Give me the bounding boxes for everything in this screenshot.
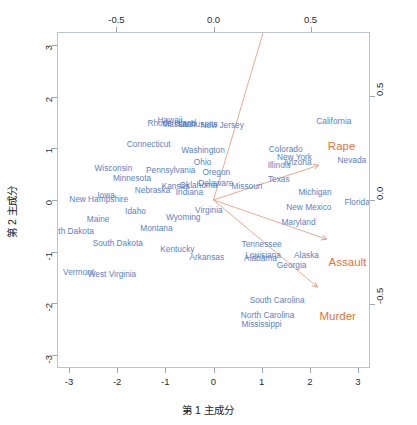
x-tick-label: 3: [355, 376, 360, 387]
x-tick-mark: [262, 368, 263, 373]
observation-label: Arkansas: [189, 253, 224, 261]
observation-label: Tennessee: [242, 240, 282, 248]
y2-tick-label: 0.5: [374, 83, 385, 96]
observation-label: Ohio: [194, 157, 212, 165]
observation-label: Louisiana: [245, 251, 281, 259]
x-axis-title: 第 1 主成分: [182, 402, 234, 417]
observation-label: Wyoming: [166, 212, 201, 220]
x2-tick-mark: [214, 27, 215, 32]
observation-label: Connecticut: [127, 140, 171, 148]
x-tick-label: 0: [211, 376, 216, 387]
x-tick-label: 2: [307, 376, 312, 387]
observation-label: Florida: [344, 198, 369, 206]
y-tick-label: 0: [43, 200, 54, 205]
y-axis-title: 第 2 主成分: [4, 186, 19, 238]
y-tick-label: -3: [43, 355, 54, 363]
observation-label: Montana: [140, 224, 172, 232]
variable-label: Rape: [328, 141, 356, 153]
y-tick-label: 1: [43, 148, 54, 153]
observation-label: Michigan: [298, 188, 331, 196]
y2-tick-label: 0.0: [374, 187, 385, 200]
observation-label: Georgia: [277, 261, 307, 269]
x2-tick-label: 0.5: [304, 14, 317, 25]
observation-label: Nevada: [338, 156, 367, 164]
x-tick-label: 1: [259, 376, 264, 387]
observation-label: Utah: [178, 120, 196, 128]
x2-tick-mark: [311, 27, 312, 32]
observation-label: New Jersey: [201, 121, 244, 129]
observation-label: California: [316, 117, 351, 125]
variable-label: Murder: [320, 311, 356, 323]
x-tick-label: -2: [113, 376, 121, 387]
observation-label: New Mexico: [286, 203, 331, 211]
observation-label: Maine: [87, 215, 110, 223]
x-tick-label: -1: [161, 376, 169, 387]
x2-tick-label: 0.0: [207, 14, 220, 25]
observation-label: Washington: [181, 146, 225, 154]
observation-label: West Virginia: [88, 269, 137, 277]
pca-biplot: -3-2-101233210-1-2-3-0.50.00.50.50.0-0.5…: [0, 0, 417, 425]
x-tick-mark: [358, 368, 359, 373]
observation-label: South Carolina: [250, 296, 305, 304]
observation-label: North Dakota: [58, 227, 94, 235]
x-tick-mark: [310, 368, 311, 373]
observation-label: Maryland: [281, 218, 315, 226]
x-tick-mark: [165, 368, 166, 373]
x-tick-mark: [69, 368, 70, 373]
observation-label: Missouri: [232, 182, 263, 190]
observation-label: Nebraska: [135, 186, 171, 194]
y2-tick-mark: [370, 304, 375, 305]
x-tick-mark: [117, 368, 118, 373]
y-tick-label: 3: [43, 45, 54, 50]
observation-label: Pennsylvania: [146, 166, 195, 174]
variable-label: Assault: [329, 257, 367, 269]
x-tick-mark: [214, 368, 215, 373]
data-region: AlabamaAlaskaArizonaArkansasCaliforniaCo…: [58, 33, 369, 367]
observation-label: Texas: [268, 175, 290, 183]
y-tick-label: -1: [43, 252, 54, 260]
y-tick-label: -2: [43, 303, 54, 311]
x-tick-label: -3: [65, 376, 73, 387]
observation-label: Oregon: [202, 168, 230, 176]
y-tick-label: 2: [43, 97, 54, 102]
observation-label: New York: [277, 153, 312, 161]
observation-label: Oklahoma: [180, 181, 218, 189]
observation-label: Wisconsin: [94, 164, 132, 172]
y2-tick-mark: [370, 200, 375, 201]
observation-label: Alaska: [294, 251, 319, 259]
observation-label: Mississippi: [241, 320, 281, 328]
x2-tick-mark: [116, 27, 117, 32]
observation-label: South Dakota: [93, 238, 143, 246]
y2-tick-label: -0.5: [374, 288, 385, 304]
observation-label: Kentucky: [160, 245, 194, 253]
observation-label: North Carolina: [241, 311, 295, 319]
observation-label: Idaho: [125, 207, 146, 215]
x2-tick-label: -0.5: [108, 14, 124, 25]
observation-label: New Hampshire: [69, 195, 128, 203]
